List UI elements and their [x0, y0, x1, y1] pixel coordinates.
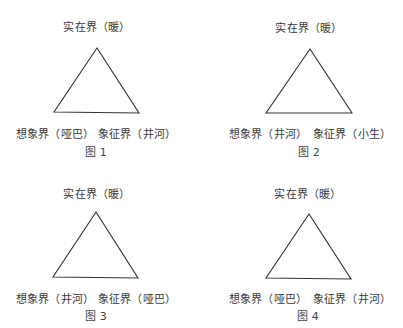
- figure-caption: 图 1: [85, 147, 107, 159]
- figure-4: 实在界（暖） 想象界（哑巴） 象征界（井河） 图 4: [200, 164, 400, 328]
- imaginary-order-label: 想象界（哑巴）: [229, 294, 307, 306]
- real-order-label: 实在界（暖）: [63, 22, 130, 34]
- figure-1: 实在界（暖） 想象界（哑巴） 象征界（井河） 图 1: [0, 0, 200, 164]
- figure-caption: 图 2: [298, 147, 320, 159]
- symbolic-order-label: 象征界（哑巴）: [98, 294, 176, 306]
- imaginary-order-label: 想象界（井河）: [16, 294, 94, 306]
- real-order-label: 实在界（暖）: [63, 189, 130, 201]
- real-order-label: 实在界（暖）: [274, 189, 341, 201]
- imaginary-order-label: 想象界（井河）: [229, 129, 307, 141]
- symbolic-order-label: 象征界（小生）: [313, 129, 391, 141]
- symbolic-order-label: 象征界（井河）: [313, 294, 391, 306]
- figure-caption: 图 3: [85, 311, 107, 323]
- real-order-label: 实在界（暖）: [275, 23, 342, 35]
- figure-2: 实在界（暖） 想象界（井河） 象征界（小生） 图 2: [200, 0, 400, 164]
- imaginary-order-label: 想象界（哑巴）: [16, 129, 94, 141]
- figure-3: 实在界（暖） 想象界（井河） 象征界（哑巴） 图 3: [0, 164, 200, 328]
- figure-caption: 图 4: [297, 311, 319, 323]
- symbolic-order-label: 象征界（井河）: [98, 129, 176, 141]
